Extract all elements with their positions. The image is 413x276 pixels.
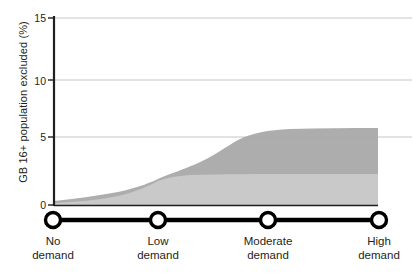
x-label-no-demand-line1: No	[5, 234, 101, 248]
x-label-low-demand-line2: demand	[110, 248, 206, 262]
x-label-high-demand-line1: High	[331, 234, 413, 248]
scale-node-low-demand[interactable]	[151, 213, 166, 228]
x-label-high-demand: High demand	[331, 234, 413, 262]
x-label-moderate-demand-line2: demand	[220, 248, 316, 262]
x-label-moderate-demand: Moderate demand	[220, 234, 316, 262]
x-label-no-demand-line2: demand	[5, 248, 101, 262]
x-label-low-demand-line1: Low	[110, 234, 206, 248]
gridlines	[54, 18, 412, 137]
chart-container: GB 16+ population excluded (%) 15 10 5 0	[0, 0, 413, 276]
x-label-low-demand: Low demand	[110, 234, 206, 262]
scale-node-moderate-demand[interactable]	[261, 213, 276, 228]
scale-node-high-demand[interactable]	[372, 213, 387, 228]
area-band-lower	[54, 174, 378, 205]
scale-node-no-demand[interactable]	[46, 213, 61, 228]
x-label-high-demand-line2: demand	[331, 248, 413, 262]
x-label-moderate-demand-line1: Moderate	[220, 234, 316, 248]
x-label-no-demand: No demand	[5, 234, 101, 262]
